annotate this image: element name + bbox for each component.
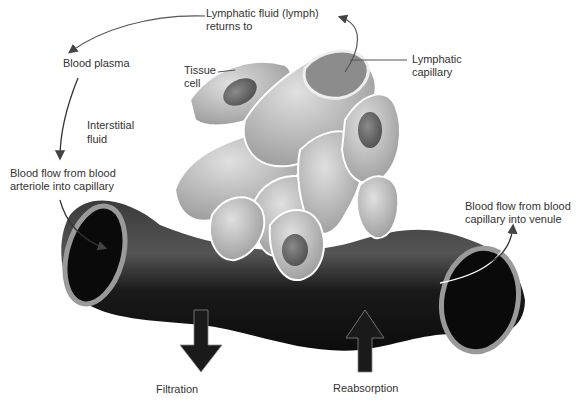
lymphatic-capillary xyxy=(304,51,368,98)
plasma-to-interstitial-arrow xyxy=(60,78,78,158)
cell-nucleus xyxy=(282,234,308,266)
reabsorption-label: Reabsorption xyxy=(333,382,398,395)
tissue-cell-label-line2: cell xyxy=(184,77,201,90)
venule-flow-label-line2: capillary into venule xyxy=(465,213,562,226)
filtration-label: Filtration xyxy=(156,383,198,396)
interstitial-fluid-label-line1: Interstitial xyxy=(87,119,134,132)
cell-nucleus xyxy=(358,112,382,148)
tissue-cell-label-line1: Tissue xyxy=(184,64,216,77)
lymph-label-line2: returns to xyxy=(206,20,252,33)
lymphatic-capillary-label-line2: capillary xyxy=(412,66,452,79)
venule-flow-label-line1: Blood flow from blood xyxy=(465,200,571,213)
lymphatic-capillary-label-line1: Lymphatic xyxy=(412,53,462,66)
lymph-to-plasma-arrow xyxy=(70,16,205,52)
lymph-label-line1: Lymphatic fluid (lymph) xyxy=(206,7,319,20)
blood-plasma-label: Blood plasma xyxy=(63,57,130,70)
interstitial-fluid-label-line2: fluid xyxy=(87,133,107,146)
arteriole-flow-label-line2: arteriole into capillary xyxy=(10,180,114,193)
arteriole-flow-label-line1: Blood flow from blood xyxy=(10,167,116,180)
